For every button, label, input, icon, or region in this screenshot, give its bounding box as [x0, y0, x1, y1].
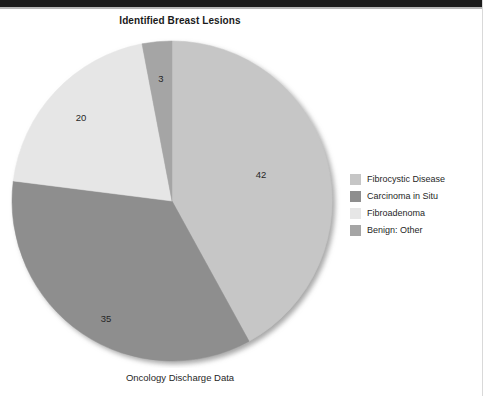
pie-slices-group — [12, 41, 332, 361]
legend-item-fibrocystic-disease[interactable]: Fibrocystic Disease — [350, 171, 480, 188]
legend-item-label: Carcinoma in Situ — [367, 191, 438, 202]
legend-item-benign-other[interactable]: Benign: Other — [350, 222, 480, 239]
pie-slice-value-label: 35 — [101, 313, 112, 324]
chart-legend: Fibrocystic Disease Carcinoma in Situ Fi… — [350, 171, 480, 239]
pie-slice-value-label: 3 — [158, 73, 163, 84]
pie-slice-value-label: 20 — [76, 112, 87, 123]
legend-item-label: Benign: Other — [367, 225, 423, 236]
page-header-rule — [0, 0, 483, 7]
legend-swatch-icon — [350, 174, 361, 185]
legend-item-carcinoma-in-situ[interactable]: Carcinoma in Situ — [350, 188, 480, 205]
legend-item-fibroadenoma[interactable]: Fibroadenoma — [350, 205, 480, 222]
chart-caption: Oncology Discharge Data — [0, 372, 360, 383]
chart-title: Identified Breast Lesions — [0, 15, 360, 26]
chart-page: Identified Breast Lesions 4235203 Oncolo… — [0, 0, 483, 396]
page-header-rule-shadow — [0, 7, 483, 9]
legend-item-label: Fibroadenoma — [367, 208, 425, 219]
pie-chart-svg: 4235203 — [8, 32, 348, 368]
pie-slice-value-label: 42 — [256, 169, 267, 180]
pie-chart: 4235203 — [8, 32, 348, 368]
legend-item-label: Fibrocystic Disease — [367, 174, 445, 185]
legend-swatch-icon — [350, 225, 361, 236]
legend-swatch-icon — [350, 208, 361, 219]
legend-swatch-icon — [350, 191, 361, 202]
